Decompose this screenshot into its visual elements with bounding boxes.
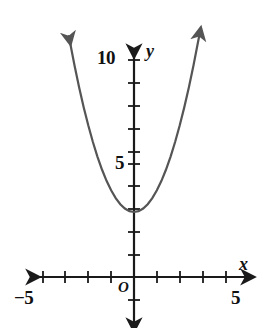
x-axis [30, 271, 245, 283]
x-axis-label: x [239, 255, 248, 273]
graph-figure: 10 5 −5 5 y x O [0, 0, 275, 328]
x-axis-tick-label-neg5: −5 [14, 288, 33, 307]
y-axis-tick-label-10: 10 [97, 48, 115, 67]
x-axis-tick-label-5: 5 [231, 288, 240, 307]
y-axis [128, 48, 140, 322]
y-axis-tick-label-5: 5 [115, 153, 124, 172]
origin-label: O [118, 280, 129, 295]
coordinate-plane-svg [0, 0, 275, 328]
y-axis-label: y [146, 42, 154, 60]
